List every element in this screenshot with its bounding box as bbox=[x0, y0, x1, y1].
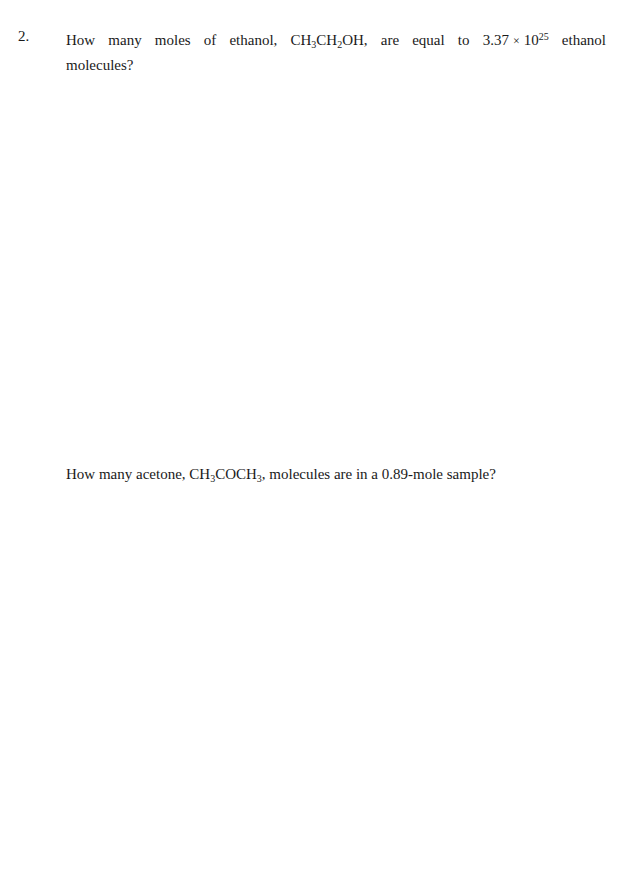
q2-text-a: How many acetone, CH bbox=[66, 466, 210, 482]
question-number: 2. bbox=[18, 28, 29, 45]
q2-text-b: COCH bbox=[215, 466, 257, 482]
question-part-1: How many moles of ethanol, CH3CH2OH, are… bbox=[66, 28, 606, 77]
question-part-2: How many acetone, CH3COCH3, molecules ar… bbox=[66, 462, 606, 486]
q1-text-c: OH, are equal to 3.37 bbox=[342, 32, 509, 48]
q2-text-c: , molecules are in a 0.89-mole sample? bbox=[262, 466, 496, 482]
q1-text-b: CH bbox=[316, 32, 337, 48]
q1-text-a: How many moles of ethanol, CH bbox=[66, 32, 311, 48]
q1-base: 10 bbox=[524, 32, 539, 48]
times-symbol: × bbox=[513, 34, 520, 48]
q1-exponent: 25 bbox=[539, 31, 549, 42]
